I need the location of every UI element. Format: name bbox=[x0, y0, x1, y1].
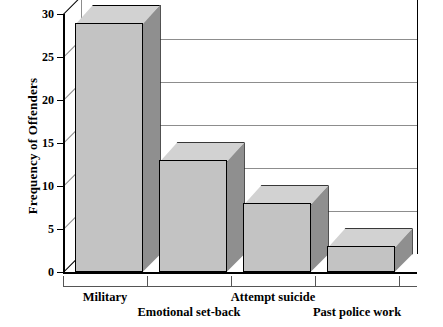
category-tick bbox=[315, 276, 316, 286]
bar-column[interactable] bbox=[159, 142, 226, 272]
category-tick bbox=[231, 276, 232, 286]
x-axis-baseline bbox=[63, 272, 417, 274]
category-tick bbox=[63, 276, 64, 286]
category-label: Attempt suicide bbox=[193, 290, 353, 305]
category-axis-line bbox=[63, 286, 417, 287]
plot-area: 051015202530 MilitaryEmotional set-backA… bbox=[0, 0, 443, 327]
bar-side-face bbox=[227, 142, 245, 272]
bar-column[interactable] bbox=[243, 185, 310, 272]
y-axis-tick-label: 0 bbox=[28, 267, 54, 277]
bar-front-face bbox=[243, 203, 310, 272]
bar-chart: Frequency of Offenders 051015202530 Mili… bbox=[0, 0, 443, 327]
y-axis-line bbox=[63, 14, 65, 272]
category-label: Past police work bbox=[277, 305, 437, 320]
category-tick bbox=[399, 276, 400, 286]
y-axis-tick-label: 30 bbox=[28, 9, 54, 19]
bar-front-face bbox=[75, 23, 142, 272]
y-axis-tick-label: 15 bbox=[28, 138, 54, 148]
category-tick bbox=[147, 276, 148, 286]
bar-side-face bbox=[143, 5, 161, 272]
category-label: Military bbox=[25, 290, 185, 305]
bar-front-face bbox=[159, 160, 226, 272]
bar-front-face bbox=[327, 246, 394, 272]
category-label: Emotional set-back bbox=[109, 305, 269, 320]
y-axis-tick-label: 20 bbox=[28, 95, 54, 105]
y-axis-tick-label: 25 bbox=[28, 52, 54, 62]
y-axis-tick-label: 10 bbox=[28, 181, 54, 191]
y-axis-tick-label: 5 bbox=[28, 224, 54, 234]
bar-column[interactable] bbox=[75, 5, 142, 272]
bar-column[interactable] bbox=[327, 228, 394, 272]
